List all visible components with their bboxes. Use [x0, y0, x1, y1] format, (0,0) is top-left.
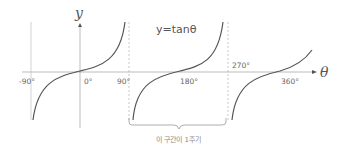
- tick-0: 0°: [84, 77, 93, 86]
- period-brace: [129, 118, 226, 129]
- y-axis-arrow-icon: [78, 23, 82, 27]
- x-axis-label: θ: [320, 64, 329, 80]
- tick-180: 180°: [180, 77, 198, 86]
- tick-90: 90°: [117, 77, 131, 86]
- tan-curve-branch-1: [33, 22, 125, 120]
- tangent-graph: y θ y=tanθ -90° 0° 90° 180° 270° 360° 이 …: [0, 0, 339, 150]
- tick-neg90: -90°: [19, 77, 35, 86]
- graph-title: y=tanθ: [156, 23, 197, 36]
- x-axis-arrow-icon: [312, 70, 317, 74]
- tan-curve-branch-2: [133, 22, 223, 120]
- tick-360: 360°: [281, 77, 299, 86]
- y-axis-label: y: [74, 5, 84, 21]
- period-note: 이 구간이 1주기: [156, 135, 201, 144]
- tick-270: 270°: [232, 61, 250, 70]
